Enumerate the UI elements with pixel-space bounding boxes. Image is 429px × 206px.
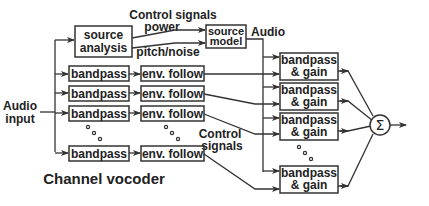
ellipsis-dots-bandpass <box>86 125 101 140</box>
summer-inputs <box>338 71 373 186</box>
svg-text:analysis: analysis <box>80 41 128 55</box>
svg-text:bandpass: bandpass <box>71 107 127 121</box>
svg-text:& gain: & gain <box>291 125 328 139</box>
svg-text:& gain: & gain <box>291 178 328 192</box>
svg-text:env. follow: env. follow <box>142 107 204 121</box>
analysis-band-n: bandpass env. follow <box>69 146 204 161</box>
svg-text:& gain: & gain <box>291 95 328 109</box>
svg-text:env. follow: env. follow <box>142 87 204 101</box>
excitation-trunk <box>246 39 279 172</box>
svg-text:env. follow: env. follow <box>142 67 204 81</box>
channel-vocoder-diagram: Audio input source analysis Control sign… <box>0 0 429 206</box>
source-analysis-block: source analysis <box>75 26 132 57</box>
ellipsis-dots-synthesis <box>297 145 312 160</box>
svg-text:& gain: & gain <box>291 65 328 79</box>
sigma-icon: Σ <box>376 117 385 133</box>
svg-text:source: source <box>84 28 124 42</box>
audio-input-label-2: input <box>5 112 34 126</box>
svg-text:model: model <box>210 35 242 47</box>
summer-node: Σ <box>370 115 390 135</box>
synthesis-band-3: bandpass & gain <box>280 113 338 140</box>
analysis-band-2: bandpass env. follow <box>69 86 204 101</box>
svg-text:bandpass: bandpass <box>71 147 127 161</box>
source-model-block: source model <box>206 25 246 48</box>
diagram-title: Channel vocoder <box>43 170 165 187</box>
control-signals-mid-label-2: signals <box>201 139 243 153</box>
svg-text:bandpass: bandpass <box>71 87 127 101</box>
synthesis-band-n: bandpass & gain <box>280 166 338 193</box>
ellipsis-dots-env <box>164 125 179 140</box>
analysis-band-3: bandpass env. follow <box>69 106 204 121</box>
audio-input-label: Audio <box>3 99 37 113</box>
svg-text:env. follow: env. follow <box>142 147 204 161</box>
analysis-band-1: bandpass env. follow <box>69 66 204 81</box>
synthesis-band-2: bandpass & gain <box>280 83 338 110</box>
pitch-noise-label: pitch/noise <box>136 45 200 59</box>
audio-label: Audio <box>251 25 285 39</box>
synthesis-band-1: bandpass & gain <box>280 53 338 80</box>
svg-text:bandpass: bandpass <box>71 67 127 81</box>
